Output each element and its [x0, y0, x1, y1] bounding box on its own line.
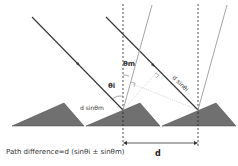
diffracted-ray-1	[123, 5, 152, 110]
label-d-sin-theta-i: d sinθi	[171, 74, 190, 93]
right-angle-marker-1	[131, 82, 135, 87]
diffracted-ray-2	[198, 5, 227, 110]
theta-i-arc	[112, 96, 123, 99]
caption-path-difference: Path difference=d (sinθi ± sinθm)	[6, 148, 124, 156]
label-d: d	[155, 149, 161, 158]
arrowhead-left-icon	[123, 141, 127, 145]
label-d-sin-theta-m: d sinθm	[80, 104, 104, 111]
arrowhead-right-icon	[194, 141, 198, 145]
theta-m-arc	[123, 75, 129, 76]
label-theta-m: θm	[123, 60, 135, 68]
diffraction-diagram: θm θi d sinθm d sinθi	[0, 0, 238, 166]
label-theta-i: θi	[108, 82, 115, 90]
grating-groove-1	[12, 103, 84, 126]
